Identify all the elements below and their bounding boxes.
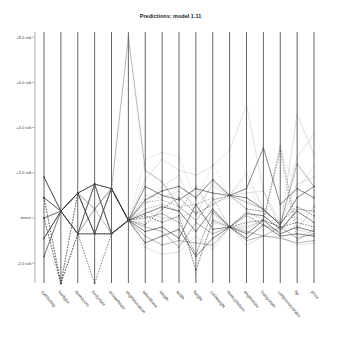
x-axis-label: curbweight (209, 289, 227, 309)
x-axis-label: width (175, 289, 186, 300)
x-axis-label: drivewheels (108, 289, 127, 311)
y-tick-label: +6.0 std (16, 80, 32, 85)
x-axis-labels: symbolingfueltypenumdoorsbodystyledrivew… (40, 289, 320, 318)
y-tick-label: mean (21, 215, 32, 220)
y-axis: +8.0 std+6.0 std+4.0 std+2.0 stdmean-2.0… (16, 32, 35, 283)
x-axis-label: symboling (40, 289, 57, 308)
x-axis-label: length (158, 289, 170, 302)
y-tick-label: +8.0 std (16, 35, 32, 40)
x-axis-label: fueltype (57, 289, 71, 304)
y-tick-label: +2.0 std (16, 170, 32, 175)
x-axis-label: numdoors (74, 289, 91, 308)
parallel-coordinates-plot: +8.0 std+6.0 std+4.0 std+2.0 stdmean-2.0… (0, 0, 341, 343)
x-axis-label: wheelbase (141, 289, 159, 309)
x-axis-label: height (192, 289, 204, 302)
feature-axes (44, 32, 314, 283)
x-axis-label: bodystyle (91, 289, 107, 307)
y-tick-label: +4.0 std (16, 125, 32, 130)
x-axis-label: enginesize (243, 289, 261, 309)
x-axis-label: price (310, 289, 320, 300)
x-axis-label: fuelsystem (260, 289, 278, 309)
x-axis-label: hp (293, 289, 300, 296)
y-tick-label: -2.0 std (17, 261, 32, 266)
